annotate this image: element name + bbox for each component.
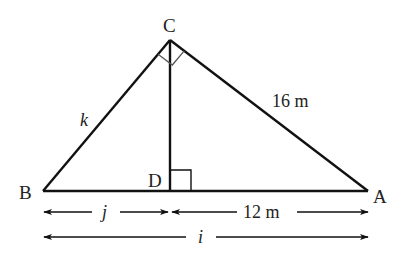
point-label-a: A xyxy=(373,186,387,207)
dim-label-12m: 12 m xyxy=(243,202,280,222)
side-label-k: k xyxy=(80,110,89,130)
point-label-d: D xyxy=(148,170,162,191)
triangle-diagram: C B A D k 16 m j 12 m i xyxy=(0,0,412,261)
side-bc xyxy=(43,40,170,191)
right-angle-mark-d xyxy=(170,170,191,191)
point-label-b: B xyxy=(19,182,32,203)
dim-label-j: j xyxy=(100,202,107,222)
point-label-c: C xyxy=(163,15,176,36)
side-ca xyxy=(170,40,368,191)
side-label-16m: 16 m xyxy=(272,91,309,111)
triangle xyxy=(43,40,368,191)
dim-label-i: i xyxy=(198,227,203,247)
